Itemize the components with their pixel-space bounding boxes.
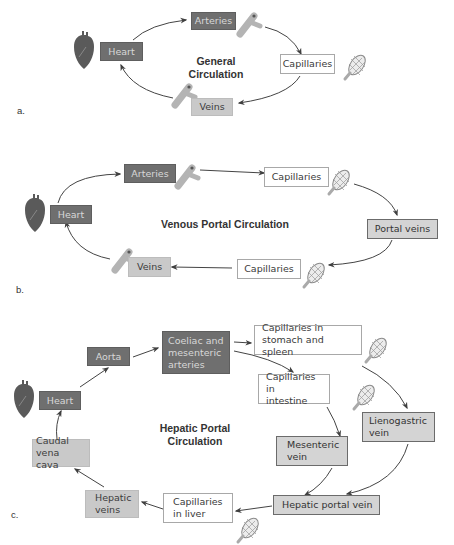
arrow-arteries-to-capillaries <box>200 170 264 173</box>
panel-a-title-line1: General <box>183 55 249 68</box>
node-heart-label: Heart <box>58 209 84 221</box>
node-cap-stomach-label-line2: stomach and spleen <box>262 334 356 358</box>
arrow-mesenteric-to-hepatic-portal <box>305 468 332 495</box>
node-heart-label: Heart <box>108 46 134 58</box>
node-arteries: Arteries <box>191 12 236 30</box>
arrow-heart-to-aorta <box>80 368 108 387</box>
panel-a-label: a. <box>17 105 25 116</box>
arrow-heart-to-arteries <box>133 20 186 40</box>
node-veins: Veins <box>191 98 233 116</box>
node-lienogastric-label-line2: vein <box>369 427 389 439</box>
node-hepatic-portal-label: Hepatic portal vein <box>282 499 373 511</box>
node-capillaries-stomach-spleen: Capillaries in stomach and spleen <box>254 325 362 355</box>
arrow-arteries-to-capillaries <box>265 27 301 54</box>
node-coeliac-mesenteric-arteries: Coeliac and mesenteric arteries <box>162 331 230 374</box>
arrow-portal-to-capillaries <box>329 240 392 265</box>
node-cap-stomach-label-line1: Capillaries in <box>262 322 323 334</box>
heart-icon <box>14 380 34 418</box>
panel-b-title: Venous Portal Circulation <box>155 218 295 231</box>
capillary-icon <box>354 382 378 409</box>
node-hepatic-veins: Hepatic veins <box>85 490 139 518</box>
node-hepatic-portal-vein: Hepatic portal vein <box>273 495 380 515</box>
node-aorta-label: Aorta <box>96 351 122 363</box>
arrow-hepatic-veins-to-caudal <box>75 469 104 487</box>
node-hepatic-veins-label-line2: veins <box>95 504 120 516</box>
arrow-coeliac-to-cap-stomach <box>234 342 251 343</box>
node-lienogastric-vein: Lienogastric vein <box>362 412 435 442</box>
panel-c-title-line2: Circulation <box>150 435 240 448</box>
arrow-cap-intestine-to-mesenteric <box>327 407 340 436</box>
node-cap-intestine-label-line2: intestine <box>266 395 307 407</box>
heart-icon <box>25 194 45 232</box>
node-cap-intestine-label-line1: Capillaries in <box>266 371 324 395</box>
node-veins-label: Veins <box>137 261 162 273</box>
node-mesenteric-label-line2: vein <box>287 451 307 463</box>
heart-icon <box>74 31 94 69</box>
panel-c-title: Hepatic Portal Circulation <box>150 422 240 448</box>
arrow-hepatic-portal-to-cap-liver <box>236 506 272 511</box>
node-arteries: Arteries <box>124 164 176 183</box>
node-caudal-vena-cava: Caudal vena cava <box>32 439 90 467</box>
node-cap-liver-label-line1: Capillaries <box>173 496 223 508</box>
node-mesenteric-label-line1: Mesenteric <box>287 439 339 451</box>
node-capillaries-2: Capillaries <box>237 259 301 279</box>
arrow-capillaries-to-veins <box>172 267 232 268</box>
node-arteries-label: Arteries <box>195 15 232 27</box>
node-caudal-label-line1: Caudal <box>36 435 69 447</box>
node-capillaries-1-label: Capillaries <box>272 171 322 183</box>
capillary-icon <box>345 52 369 79</box>
panel-c-title-line1: Hepatic Portal <box>150 422 240 435</box>
node-portal-veins-label: Portal veins <box>375 223 430 235</box>
node-capillaries-intestine: Capillaries in intestine <box>258 374 330 404</box>
node-heart: Heart <box>50 205 92 224</box>
arrow-capillaries-to-portal <box>354 184 397 215</box>
capillary-icon <box>304 260 328 287</box>
node-aorta: Aorta <box>87 347 130 366</box>
panel-c-label: c. <box>11 509 18 520</box>
node-capillaries-1: Capillaries <box>264 167 329 187</box>
artery-vessel-icon <box>240 14 260 34</box>
node-capillaries: Capillaries <box>280 54 335 74</box>
node-coeliac-label-line2: mesenteric <box>168 347 221 359</box>
arrow-heart-to-arteries <box>58 174 120 203</box>
node-veins: Veins <box>128 257 171 277</box>
capillary-icon <box>238 515 262 542</box>
node-mesenteric-vein: Mesenteric vein <box>276 436 348 466</box>
capillary-icon <box>329 167 353 194</box>
panel-a-title-line2: Circulation <box>183 68 249 81</box>
node-heart: Heart <box>100 42 143 61</box>
artery-vessel-icon <box>178 166 198 186</box>
node-capillaries-liver: Capillaries in liver <box>163 493 233 523</box>
node-cap-liver-label-line2: in liver <box>173 508 205 520</box>
node-heart: Heart <box>39 391 81 410</box>
panel-b-label: b. <box>16 284 24 295</box>
arrow-aorta-to-coeliac <box>133 348 158 357</box>
arrow-veins-to-heart <box>66 222 110 259</box>
node-arteries-label: Arteries <box>131 168 168 180</box>
node-coeliac-label-line3: arteries <box>168 359 205 371</box>
node-hepatic-veins-label-line1: Hepatic <box>95 492 131 504</box>
node-heart-label: Heart <box>47 395 73 407</box>
arrow-lienogastric-to-hepatic-portal <box>347 444 408 494</box>
node-caudal-label-line2: vena cava <box>36 447 84 471</box>
node-capillaries-2-label: Capillaries <box>244 263 294 275</box>
capillary-icon <box>366 335 390 362</box>
node-veins-label: Veins <box>199 101 224 113</box>
panel-a-title: General Circulation <box>183 55 249 81</box>
arrow-veins-to-heart <box>121 65 173 98</box>
node-capillaries-label: Capillaries <box>283 58 333 70</box>
node-coeliac-label-line1: Coeliac and <box>168 335 224 347</box>
node-lienogastric-label-line1: Lienogastric <box>369 415 427 427</box>
node-portal-veins: Portal veins <box>367 219 438 239</box>
arrow-cap-liver-to-hepatic-veins <box>142 502 163 509</box>
